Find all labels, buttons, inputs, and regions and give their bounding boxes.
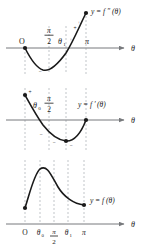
point-minimum-panel-2 xyxy=(64,139,68,143)
half-pi-denominator-panel-3: 2 xyxy=(52,238,56,246)
curve-label-y-panel-1: y xyxy=(90,7,95,16)
sign-mark-positive-panel-2: + xyxy=(28,89,31,95)
axis-label-theta-panel-3: θ xyxy=(131,220,135,229)
sign-mark-positive-b-panel-1: + xyxy=(70,37,73,42)
theta-zero-base-panel-2: θ xyxy=(33,101,37,110)
math-figure-triptych: − + + + O π 2 θ 1 π θ y = f ″ (θ) xyxy=(0,0,146,246)
tick-label-origin-panel-3: O xyxy=(22,228,28,237)
figure-canvas: − + + + O π 2 θ 1 π θ y = f ″ (θ) xyxy=(0,0,146,246)
tick-label-origin-panel-1: O xyxy=(19,37,25,46)
axis-label-theta-panel-2: θ xyxy=(131,116,135,125)
curve-label-eq-panel-2: = xyxy=(84,100,88,109)
point-origin-panel-1 xyxy=(23,46,27,50)
sign-mark-negative-b-panel-2: − xyxy=(52,139,55,145)
curve-label-eq-panel-1: = xyxy=(97,7,101,16)
sign-mark-negative-a-panel-2: − xyxy=(39,131,42,137)
half-pi-denominator-panel-2: 2 xyxy=(47,105,51,114)
curve-label-y-panel-2: y xyxy=(77,100,82,109)
half-pi-numerator-panel-3: π xyxy=(52,228,56,236)
axis-label-theta-panel-1: θ xyxy=(131,44,135,53)
sign-mark-positive-c-panel-1: + xyxy=(78,20,81,25)
curve-label-y-panel-3: y xyxy=(89,196,94,205)
curve-label-arg-panel-2: (θ) xyxy=(97,100,106,109)
curve-label-arg-panel-3: (θ) xyxy=(106,196,115,205)
point-origin-panel-2 xyxy=(23,93,27,97)
half-pi-numerator-panel-1: π xyxy=(47,26,51,35)
theta-one-base-panel-3: θ xyxy=(65,228,69,237)
sign-mark-positive-panel-1: + xyxy=(73,25,76,31)
tick-label-pi-panel-3: π xyxy=(82,228,86,237)
curve-label-function: y = f (θ) xyxy=(89,196,115,205)
theta-zero-base-panel-3: θ xyxy=(37,228,41,237)
theta-one-base-panel-1: θ xyxy=(58,37,62,46)
sign-mark-negative-c-panel-2: − xyxy=(69,142,72,148)
point-pi-panel-1 xyxy=(84,11,88,15)
point-origin-panel-3 xyxy=(23,206,27,210)
curve-label-arg-panel-1: (θ) xyxy=(112,7,121,16)
sign-mark-negative-panel-1: − xyxy=(38,68,41,74)
curve-label-eq-panel-3: = xyxy=(96,196,100,205)
half-pi-numerator-panel-2: π xyxy=(47,94,51,103)
half-pi-denominator-panel-1: 2 xyxy=(47,37,51,46)
point-pi-panel-2 xyxy=(84,118,88,122)
point-pi-panel-3 xyxy=(82,203,86,207)
